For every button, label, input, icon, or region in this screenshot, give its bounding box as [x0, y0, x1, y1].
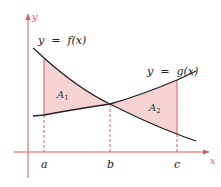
- x-axis-arrow-icon: [203, 150, 210, 155]
- curve-g-label: y = g(x): [146, 65, 198, 78]
- point-b-label: b: [107, 158, 114, 171]
- y-axis-arrow-icon: [26, 13, 31, 20]
- area-between-curves-diagram: y x y = f(x) y = g(x) A1 A2 a b c: [0, 0, 221, 187]
- curve-f-label: y = f(x): [37, 34, 86, 47]
- region-a2: [110, 80, 177, 134]
- point-a-label: a: [41, 158, 48, 171]
- point-c-label: c: [174, 158, 180, 171]
- x-axis-label: x: [210, 155, 216, 166]
- y-axis-label: y: [31, 11, 38, 22]
